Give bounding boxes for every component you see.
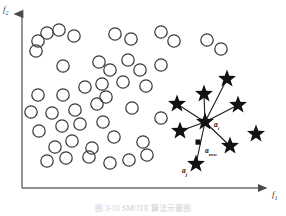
annotation-ai-subscript: i xyxy=(218,126,219,131)
data-point-star-aj xyxy=(187,155,205,172)
y-axis-label-subscript: 2 xyxy=(6,10,9,16)
data-point-circle xyxy=(69,104,81,116)
scatter-plot-svg xyxy=(0,0,286,216)
data-point-circle xyxy=(66,135,78,147)
data-point-star xyxy=(171,122,189,139)
data-point-circle xyxy=(126,102,138,114)
data-point-circle xyxy=(155,59,167,71)
data-point-circle xyxy=(215,43,227,55)
annotation-anew: anew xyxy=(205,146,217,157)
figure-container: f2 f1 ai anew aj 图 3-10 SMOTE 算法示意图 xyxy=(0,0,286,216)
data-point-circle xyxy=(140,80,152,92)
data-point-circle xyxy=(91,98,103,110)
axis-group xyxy=(22,14,266,188)
annotation-aj-subscript: j xyxy=(186,172,187,177)
data-point-circle xyxy=(93,56,105,68)
data-point-circle xyxy=(104,64,116,76)
data-point-circle xyxy=(123,154,135,166)
annotation-aj: aj xyxy=(182,166,187,177)
data-point-star xyxy=(221,137,239,154)
data-point-circle xyxy=(57,89,69,101)
circle-points-group xyxy=(25,24,227,169)
annotation-anew-subscript: new xyxy=(209,152,217,157)
data-point-circle xyxy=(96,78,108,90)
data-point-circle xyxy=(53,24,65,36)
data-point-circle xyxy=(109,28,121,40)
x-axis-label-subscript: 1 xyxy=(275,195,278,201)
y-axis-label: f2 xyxy=(3,4,9,16)
data-point-circle xyxy=(134,64,146,76)
data-point-circle xyxy=(201,34,213,46)
data-point-star xyxy=(218,70,236,87)
data-point-circle xyxy=(68,30,80,42)
data-point-circle xyxy=(56,120,68,132)
data-point-star xyxy=(229,96,247,113)
data-point-circle xyxy=(100,91,112,103)
data-point-circle xyxy=(60,152,72,164)
data-point-circle xyxy=(97,116,109,128)
data-point-circle xyxy=(57,60,69,72)
data-point-circle xyxy=(74,118,86,130)
data-point-circle xyxy=(137,136,149,148)
data-point-star xyxy=(168,95,186,112)
data-point-circle xyxy=(155,26,167,38)
data-point-circle xyxy=(168,35,180,47)
data-point-circle xyxy=(108,131,120,143)
data-point-circle xyxy=(104,157,116,169)
data-point-circle xyxy=(33,125,45,137)
figure-caption: 图 3-10 SMOTE 算法示意图 xyxy=(0,202,286,213)
data-point-circle xyxy=(46,107,58,119)
data-point-circle xyxy=(86,142,98,154)
x-axis-label: f1 xyxy=(272,189,278,201)
data-point-star-outlier xyxy=(247,125,265,142)
data-point-star-center xyxy=(196,113,214,130)
data-point-circle xyxy=(41,155,53,167)
data-point-square-anew xyxy=(196,140,201,145)
data-point-circle xyxy=(141,149,153,161)
annotation-ai: ai xyxy=(214,120,219,131)
data-point-circle xyxy=(79,81,91,93)
data-point-circle xyxy=(83,151,95,163)
data-point-circle xyxy=(125,33,137,45)
data-point-circle xyxy=(155,112,167,124)
data-point-circle xyxy=(117,76,129,88)
data-point-circle xyxy=(32,89,44,101)
data-point-circle xyxy=(25,106,37,118)
data-point-circle xyxy=(122,54,134,66)
data-point-circle xyxy=(49,141,61,153)
